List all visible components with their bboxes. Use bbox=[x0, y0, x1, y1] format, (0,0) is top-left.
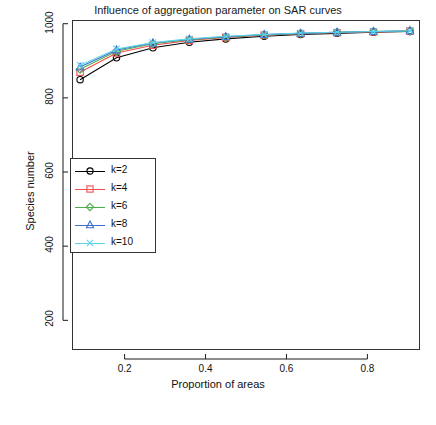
legend-marker-icon bbox=[85, 184, 95, 194]
legend-item: k=4 bbox=[71, 180, 157, 199]
y-tick-label: 200 bbox=[44, 299, 55, 339]
y-axis-label: Species number bbox=[24, 101, 36, 281]
y-tick-label: 600 bbox=[44, 151, 55, 191]
chart-legend: k=2 k=4 k=6 k=8 k=10 bbox=[70, 158, 156, 253]
chart-plot-area bbox=[0, 0, 436, 425]
legend-marker-icon bbox=[85, 202, 95, 212]
legend-item: k=10 bbox=[71, 234, 157, 253]
legend-marker-icon bbox=[85, 166, 95, 176]
legend-marker-icon bbox=[85, 220, 95, 230]
legend-label: k=10 bbox=[111, 236, 133, 247]
y-tick-label: 400 bbox=[44, 225, 55, 265]
legend-label: k=8 bbox=[111, 218, 127, 229]
legend-item: k=8 bbox=[71, 216, 157, 235]
chart-container: Influence of aggregation parameter on SA… bbox=[0, 0, 436, 425]
x-tick-label: 0.2 bbox=[113, 363, 137, 374]
legend-label: k=4 bbox=[111, 182, 127, 193]
x-tick-label: 0.4 bbox=[194, 363, 218, 374]
legend-label: k=2 bbox=[111, 164, 127, 175]
x-tick-label: 0.8 bbox=[355, 363, 379, 374]
x-axis-label: Proportion of areas bbox=[0, 378, 436, 390]
y-tick-label: 1000 bbox=[44, 2, 55, 42]
x-tick-label: 0.6 bbox=[274, 363, 298, 374]
legend-label: k=6 bbox=[111, 200, 127, 211]
legend-marker-icon bbox=[85, 238, 95, 248]
y-tick-label: 800 bbox=[44, 76, 55, 116]
legend-item: k=2 bbox=[71, 162, 157, 181]
legend-item: k=6 bbox=[71, 198, 157, 217]
